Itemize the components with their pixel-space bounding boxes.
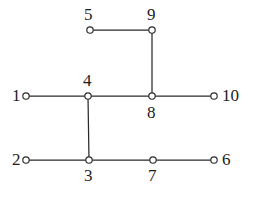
graph-edge xyxy=(88,99,89,157)
graph-node-label-5: 5 xyxy=(84,6,93,23)
graph-node-label-6: 6 xyxy=(222,151,231,168)
graph-node-6[interactable] xyxy=(211,157,217,163)
graph-node-label-4: 4 xyxy=(83,72,92,89)
graph-node-label-9: 9 xyxy=(147,6,156,23)
graph-canvas xyxy=(0,0,253,199)
graph-node-label-8: 8 xyxy=(147,104,156,121)
graph-node-1[interactable] xyxy=(23,93,29,99)
graph-node-8[interactable] xyxy=(149,93,155,99)
graph-diagram: 12345678910 xyxy=(0,0,253,199)
graph-node-4[interactable] xyxy=(85,93,91,99)
node-layer xyxy=(23,27,217,163)
graph-node-9[interactable] xyxy=(149,27,155,33)
graph-node-2[interactable] xyxy=(23,157,29,163)
graph-node-label-3: 3 xyxy=(84,167,93,184)
graph-node-7[interactable] xyxy=(150,157,156,163)
graph-node-10[interactable] xyxy=(211,93,217,99)
graph-node-label-10: 10 xyxy=(222,87,239,104)
edge-layer xyxy=(29,30,211,160)
graph-node-3[interactable] xyxy=(86,157,92,163)
graph-node-5[interactable] xyxy=(87,27,93,33)
graph-node-label-2: 2 xyxy=(12,151,21,168)
graph-node-label-1: 1 xyxy=(12,87,21,104)
graph-node-label-7: 7 xyxy=(148,167,157,184)
